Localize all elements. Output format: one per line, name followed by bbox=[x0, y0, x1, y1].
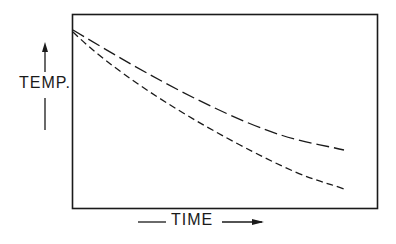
x-axis-label: TIME bbox=[171, 211, 213, 229]
y-axis-label: TEMP. bbox=[19, 74, 71, 92]
long-dash-curve bbox=[73, 30, 344, 150]
short-dash-curve bbox=[73, 32, 344, 189]
chart-canvas bbox=[0, 0, 396, 244]
plot-frame bbox=[73, 15, 378, 209]
